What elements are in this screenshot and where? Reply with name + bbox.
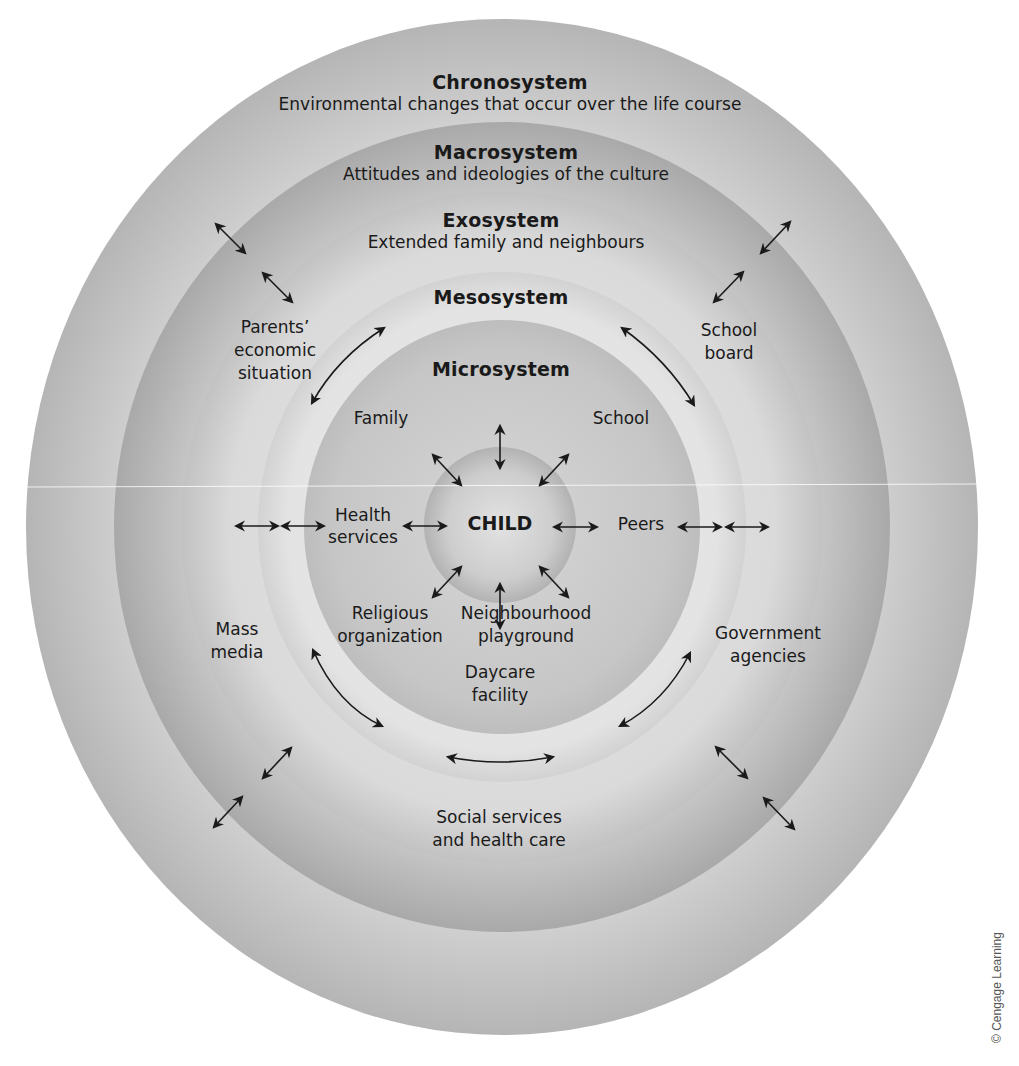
government-agencies-label-line1: Government [715, 624, 821, 644]
chronosystem-description: Environmental changes that occur over th… [279, 95, 742, 115]
microsystem-title: Microsystem [432, 359, 570, 381]
neighbourhood-playground-label-line2: playground [478, 627, 574, 647]
school-board-label-line1: School [701, 321, 757, 341]
daycare-facility-label-line1: Daycare [465, 663, 535, 683]
neighbourhood-playground-label-line1: Neighbourhood [461, 604, 592, 624]
religious-organization-label-line1: Religious [352, 604, 429, 624]
macrosystem-title: Macrosystem [434, 142, 578, 164]
child-label: CHILD [468, 513, 533, 535]
exosystem-title: Exosystem [443, 210, 560, 232]
religious-organization-label-line2: organization [337, 627, 443, 647]
school-board-label-line2: board [704, 344, 753, 364]
parents-economic-label-line2: economic [234, 341, 316, 361]
mesosystem-title: Mesosystem [434, 287, 569, 309]
mass-media-label-line1: Mass [216, 620, 259, 640]
social-services-label-line2: and health care [432, 831, 565, 851]
health-services-label-line2: services [328, 528, 398, 548]
copyright-notice: © Cengage Learning [990, 932, 1004, 1043]
family-label: Family [354, 409, 409, 429]
peers-label: Peers [618, 515, 664, 535]
daycare-facility-label-line2: facility [472, 686, 529, 706]
chronosystem-title: Chronosystem [432, 72, 588, 94]
social-services-label-line1: Social services [436, 808, 562, 828]
macrosystem-description: Attitudes and ideologies of the culture [343, 165, 669, 185]
ecological-systems-diagram: Chronosystem Environmental changes that … [0, 0, 1019, 1066]
school-label: School [593, 409, 649, 429]
exosystem-description: Extended family and neighbours [368, 233, 645, 253]
health-services-label-line1: Health [335, 506, 391, 526]
parents-economic-label-line1: Parents’ [241, 318, 310, 338]
parents-economic-label-line3: situation [238, 364, 312, 384]
mass-media-label-line2: media [211, 643, 264, 663]
government-agencies-label-line2: agencies [730, 647, 806, 667]
